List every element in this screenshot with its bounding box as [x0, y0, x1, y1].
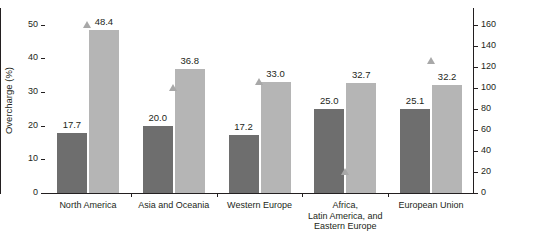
bar-label-mean: 36.8	[169, 56, 211, 66]
y-right-tick	[474, 88, 478, 89]
bar-median-overcharge	[400, 109, 430, 193]
y-right-tick-label: 0	[481, 188, 486, 197]
x-axis-tick	[302, 193, 303, 197]
y-left-tick	[41, 25, 45, 26]
y-axis-left-line	[0, 8, 1, 194]
category-label: Asia and Oceania	[125, 200, 223, 211]
category-label-line: North America	[39, 200, 137, 211]
category-label-line: European Union	[382, 200, 480, 211]
category-label-line: Eastern Europe	[296, 221, 394, 232]
bar-label-median: 25.1	[394, 96, 436, 106]
y-left-tick-label: 40	[12, 53, 38, 62]
chart-container: Overcharge (%) Number of cartel episodes…	[0, 0, 538, 239]
bar-median-overcharge	[57, 133, 87, 193]
bar-median-overcharge	[314, 109, 344, 193]
x-axis-tick	[217, 193, 218, 197]
y-right-tick	[474, 193, 478, 194]
x-axis-line	[45, 193, 474, 194]
bar-median-overcharge	[143, 126, 173, 193]
y-right-tick-label: 140	[481, 41, 496, 50]
y-right-tick	[474, 46, 478, 47]
y-left-tick	[41, 159, 45, 160]
category-label: North America	[39, 200, 137, 211]
category-label-line: Asia and Oceania	[125, 200, 223, 211]
bar-label-median: 25.0	[308, 96, 350, 106]
marker-cartel-episodes	[83, 21, 91, 28]
y-right-tick-label: 80	[481, 104, 491, 113]
bar-label-mean: 32.7	[340, 70, 382, 80]
y-left-tick	[41, 193, 45, 194]
marker-cartel-episodes	[169, 84, 177, 91]
bar-label-median: 17.7	[51, 120, 93, 130]
y-right-tick-label: 60	[481, 125, 491, 134]
y-right-tick	[474, 151, 478, 152]
bar-mean-overcharge	[175, 69, 205, 193]
y-right-tick-label: 160	[481, 20, 496, 29]
marker-cartel-episodes	[341, 168, 349, 175]
y-right-tick	[474, 172, 478, 173]
y-right-tick-label: 40	[481, 146, 491, 155]
y-left-tick-label: 10	[12, 154, 38, 163]
y-right-tick	[474, 130, 478, 131]
y-left-tick-label: 20	[12, 121, 38, 130]
bar-mean-overcharge	[432, 85, 462, 193]
category-label-line: Latin America, and	[296, 211, 394, 222]
x-axis-tick	[388, 193, 389, 197]
y-axis-right-line	[473, 8, 474, 194]
bar-label-median: 20.0	[137, 113, 179, 123]
bar-label-mean: 32.2	[426, 72, 468, 82]
y-right-tick	[474, 67, 478, 68]
y-left-tick-label: 0	[12, 188, 38, 197]
y-right-tick-label: 20	[481, 167, 491, 176]
y-left-tick-label: 30	[12, 87, 38, 96]
y-left-tick	[41, 92, 45, 93]
category-label-line: Africa,	[296, 200, 394, 211]
y-left-tick-label: 50	[12, 20, 38, 29]
x-axis-tick	[131, 193, 132, 197]
category-label: Western Europe	[211, 200, 309, 211]
marker-cartel-episodes	[427, 57, 435, 64]
bar-median-overcharge	[229, 135, 259, 193]
y-right-tick-label: 120	[481, 62, 496, 71]
bar-label-median: 17.2	[223, 122, 265, 132]
bar-mean-overcharge	[89, 30, 119, 193]
category-label-line: Western Europe	[211, 200, 309, 211]
y-left-tick	[41, 126, 45, 127]
bar-mean-overcharge	[261, 82, 291, 193]
marker-cartel-episodes	[255, 78, 263, 85]
y-left-tick	[41, 58, 45, 59]
bar-mean-overcharge	[346, 83, 376, 193]
y-right-tick-label: 100	[481, 83, 496, 92]
category-label: European Union	[382, 200, 480, 211]
y-right-tick	[474, 109, 478, 110]
y-right-tick	[474, 25, 478, 26]
category-label: Africa,Latin America, andEastern Europe	[296, 200, 394, 232]
